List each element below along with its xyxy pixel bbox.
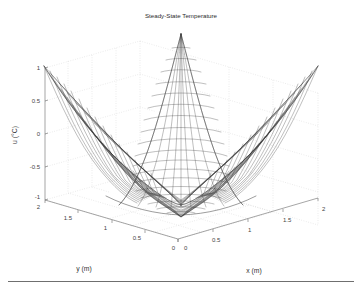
figure-canvas: Steady-State Temperature bbox=[0, 0, 362, 298]
y-tick-labels: 2 1.5 1 0.5 0 bbox=[37, 204, 176, 251]
z-tick-label: 0 bbox=[37, 131, 41, 137]
y-tick-label: 1 bbox=[104, 225, 108, 231]
y-tick-label: 2 bbox=[37, 204, 41, 210]
z-tick-label: -0.5 bbox=[30, 164, 41, 170]
x-tick-label: 0 bbox=[184, 245, 188, 251]
y-axis-label: y (m) bbox=[76, 265, 91, 273]
x-tick-label: 0.5 bbox=[212, 237, 221, 243]
surface-plot: Steady-State Temperature bbox=[0, 0, 362, 298]
x-axis-label: x (m) bbox=[246, 267, 261, 275]
bottom-rule bbox=[8, 281, 354, 282]
z-axis-label: u (°C) bbox=[11, 126, 19, 144]
y-tick-label: 1.5 bbox=[64, 215, 73, 221]
z-tick-labels: 1 0.5 0 -0.5 -1 bbox=[30, 65, 41, 200]
plot-title: Steady-State Temperature bbox=[145, 12, 218, 19]
y-tick-label: 0 bbox=[172, 245, 176, 251]
x-tick-label: 1.5 bbox=[283, 217, 292, 223]
x-tick-label: 1 bbox=[248, 227, 252, 233]
z-tick-label: 1 bbox=[37, 65, 41, 71]
z-tick-label: -1 bbox=[35, 194, 41, 200]
y-tick-label: 0.5 bbox=[133, 235, 142, 241]
mesh-surface bbox=[44, 34, 318, 217]
x-tick-label: 2 bbox=[322, 206, 326, 212]
z-tick-label: 0.5 bbox=[32, 98, 41, 104]
